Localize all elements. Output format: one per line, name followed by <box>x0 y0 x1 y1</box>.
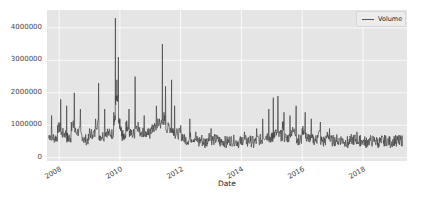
y-tick-label: 4000000 <box>2 23 42 31</box>
y-tick-label: 1000000 <box>2 120 42 128</box>
legend-label: Volume <box>378 15 402 23</box>
x-axis-label: Date <box>218 179 236 188</box>
y-tick-label: 0 <box>2 153 42 161</box>
y-tick-label: 3000000 <box>2 55 42 63</box>
legend: Volume <box>356 11 406 27</box>
y-tick-label: 2000000 <box>2 88 42 96</box>
legend-line-icon <box>362 19 374 20</box>
